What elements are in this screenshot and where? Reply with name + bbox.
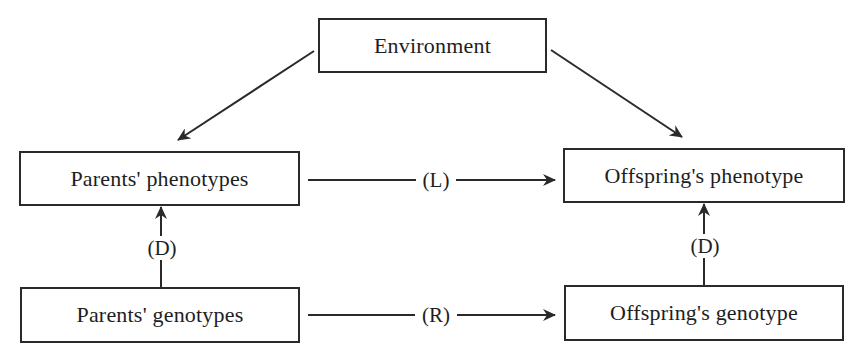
node-environment-label: Environment [374, 33, 491, 59]
node-offspring-phenotype: Offspring's phenotype [563, 148, 845, 203]
node-offspring-phenotype-label: Offspring's phenotype [604, 163, 803, 189]
edge-label-d-right: (D) [684, 234, 726, 258]
edge-label-r: (R) [415, 303, 457, 327]
node-parents-phenotypes: Parents' phenotypes [19, 151, 300, 206]
edge-environment-to-offspring-phenotype [551, 50, 682, 137]
node-environment: Environment [318, 18, 547, 73]
node-parents-phenotypes-label: Parents' phenotypes [70, 166, 248, 192]
node-offspring-genotype: Offspring's genotype [564, 285, 844, 341]
node-offspring-genotype-label: Offspring's genotype [610, 300, 798, 326]
node-parents-genotypes: Parents' genotypes [20, 287, 300, 343]
edge-label-l: (L) [416, 168, 456, 192]
edge-environment-to-parents-phenotypes [178, 51, 314, 140]
node-parents-genotypes-label: Parents' genotypes [76, 302, 243, 328]
edge-label-d-left: (D) [141, 236, 183, 260]
